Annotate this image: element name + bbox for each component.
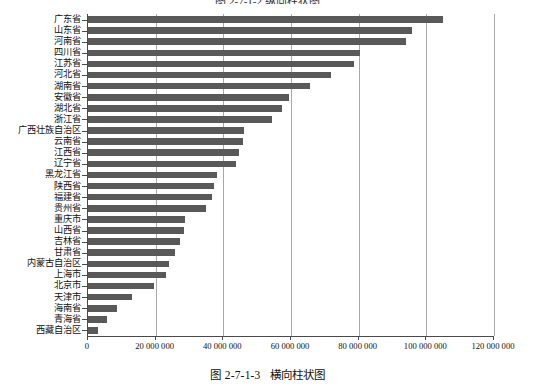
bar-row (88, 181, 214, 192)
bar (88, 249, 175, 256)
gridline (494, 14, 495, 336)
bar-row (88, 225, 184, 236)
bar (88, 316, 107, 323)
bar-row (88, 325, 98, 336)
figure-caption: 图 2-7-1-3横向柱状图 (0, 366, 535, 382)
y-axis-label: 江西省 (54, 147, 81, 158)
x-axis-tick (87, 336, 88, 340)
bar-row (88, 169, 217, 180)
y-axis-label: 内蒙古自治区 (27, 258, 81, 269)
figure-horizontal-bar-chart: 图 2-7-1-2 纵向柱状图 广东省山东省河南省四川省江苏省河北省湖南省安徽省… (0, 0, 535, 389)
y-axis-label: 云南省 (54, 136, 81, 147)
bar-series (88, 14, 494, 336)
bar (88, 227, 184, 234)
bar (88, 94, 289, 101)
y-axis-label: 安徽省 (54, 92, 81, 103)
y-axis-label: 湖南省 (54, 81, 81, 92)
x-axis-label: 80 000 000 (338, 341, 377, 351)
bar (88, 327, 98, 334)
bar-row (88, 47, 360, 58)
bar (88, 161, 236, 168)
y-axis-label: 山西省 (54, 225, 81, 236)
y-axis-label: 吉林省 (54, 236, 81, 247)
y-axis-label: 四川省 (54, 47, 81, 58)
bar (88, 27, 412, 34)
bar (88, 294, 132, 301)
previous-figure-caption-sliver: 图 2-7-1-2 纵向柱状图 (0, 0, 535, 4)
y-axis-label: 甘肃省 (54, 247, 81, 258)
y-axis-label: 湖北省 (54, 103, 81, 114)
x-axis-tick (155, 336, 156, 340)
x-axis-tick (358, 336, 359, 340)
bar-row (88, 125, 244, 136)
y-axis-label: 北京市 (54, 280, 81, 291)
y-axis-label: 贵州省 (54, 203, 81, 214)
bar (88, 127, 244, 134)
bar-row (88, 81, 310, 92)
y-axis-label: 重庆市 (54, 214, 81, 225)
bar (88, 261, 169, 268)
x-axis-tick (222, 336, 223, 340)
bar-row (88, 203, 206, 214)
bar-row (88, 314, 107, 325)
plot-area (87, 14, 494, 337)
y-axis-label: 江苏省 (54, 58, 81, 69)
x-axis: 020 000 00040 000 00060 000 00080 000 00… (87, 336, 493, 360)
x-axis-label: 60 000 000 (271, 341, 310, 351)
bar (88, 50, 360, 57)
figure-caption-number: 图 2-7-1-3 (210, 369, 260, 381)
bar-row (88, 247, 175, 258)
bar (88, 38, 406, 45)
bar (88, 138, 243, 145)
bar-row (88, 136, 243, 147)
bar-row (88, 192, 212, 203)
bar (88, 194, 212, 201)
bar-row (88, 292, 132, 303)
bar (88, 16, 443, 23)
y-axis-label: 浙江省 (54, 114, 81, 125)
bar (88, 105, 282, 112)
bar-row (88, 269, 166, 280)
bar (88, 216, 185, 223)
bar-row (88, 114, 272, 125)
y-axis-label: 上海市 (54, 269, 81, 280)
y-axis-label: 黑龙江省 (45, 169, 81, 180)
bar (88, 305, 117, 312)
bar (88, 283, 154, 290)
x-axis-label: 120 000 000 (472, 341, 515, 351)
x-axis-label: 100 000 000 (404, 341, 447, 351)
y-axis-label: 青海省 (54, 314, 81, 325)
bar-row (88, 147, 239, 158)
x-axis-tick (493, 336, 494, 340)
y-axis-label: 辽宁省 (54, 158, 81, 169)
bar (88, 183, 214, 190)
bar (88, 238, 180, 245)
y-axis-label: 河南省 (54, 36, 81, 47)
bar-row (88, 236, 180, 247)
bar-row (88, 303, 117, 314)
bar (88, 205, 206, 212)
bar (88, 149, 239, 156)
x-axis-tick (290, 336, 291, 340)
y-axis-label: 山东省 (54, 25, 81, 36)
bar-row (88, 214, 185, 225)
bar-row (88, 280, 154, 291)
y-axis-label: 河北省 (54, 69, 81, 80)
y-axis-label: 西藏自治区 (36, 325, 81, 336)
bar-row (88, 103, 282, 114)
x-axis-label: 40 000 000 (203, 341, 242, 351)
bar-row (88, 25, 412, 36)
bar-row (88, 70, 331, 81)
bar-row (88, 258, 169, 269)
y-axis-label: 福建省 (54, 192, 81, 203)
bar (88, 72, 331, 79)
bar (88, 272, 166, 279)
y-axis-label: 天津市 (54, 292, 81, 303)
bar-row (88, 92, 289, 103)
bar-row (88, 36, 406, 47)
x-axis-tick (425, 336, 426, 340)
y-axis-label: 海南省 (54, 303, 81, 314)
y-axis-label: 陕西省 (54, 181, 81, 192)
bar (88, 83, 310, 90)
x-axis-label: 20 000 000 (135, 341, 174, 351)
